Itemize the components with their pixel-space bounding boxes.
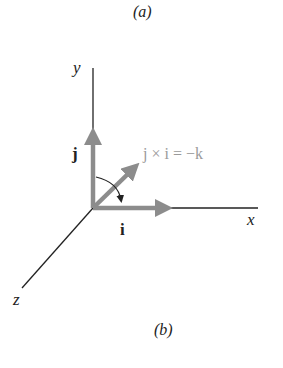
z-axis-label: z — [13, 290, 20, 310]
caption-b: (b) — [154, 321, 173, 339]
neg-k-vector-arrow — [93, 169, 133, 208]
j-vector-label: j — [72, 144, 78, 164]
z-axis — [22, 208, 93, 288]
rotation-arc-icon — [96, 177, 121, 200]
x-axis-label: x — [247, 210, 255, 230]
y-axis-label: y — [73, 58, 81, 78]
coordinate-diagram — [0, 0, 283, 368]
i-vector-label: i — [120, 220, 125, 240]
cross-product-label: j × i = −k — [143, 145, 203, 163]
